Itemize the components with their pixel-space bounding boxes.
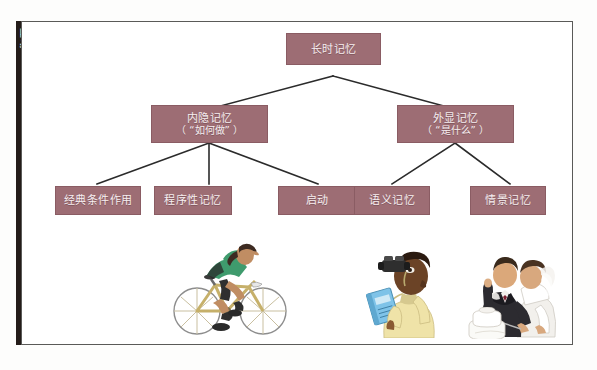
node-procedural-memory[interactable]: 程序性记忆 bbox=[154, 186, 232, 215]
diagram-canvas: 长时记忆 内隐记忆 （ “如何做” ） 外显记忆 （ “是什么” ） 经典条件作… bbox=[21, 21, 573, 345]
node-label: 长时记忆 bbox=[311, 43, 357, 56]
node-label: 程序性记忆 bbox=[164, 194, 222, 207]
node-label: 情景记忆 bbox=[485, 194, 531, 207]
edge-implicit-to-classical bbox=[97, 143, 209, 184]
node-classical-conditioning[interactable]: 经典条件作用 bbox=[55, 186, 141, 215]
node-label: 外显记忆 bbox=[433, 112, 479, 125]
node-label: 经典条件作用 bbox=[64, 194, 133, 207]
node-episodic-memory[interactable]: 情景记忆 bbox=[470, 186, 546, 215]
node-label: 内隐记忆 bbox=[187, 112, 233, 125]
node-implicit-memory[interactable]: 内隐记忆 （ “如何做” ） bbox=[151, 105, 268, 143]
node-sublabel: （ “如何做” ） bbox=[176, 125, 243, 137]
node-priming[interactable]: 启动 bbox=[278, 186, 356, 215]
illustration-photographer bbox=[366, 246, 444, 338]
illustration-cyclist bbox=[171, 239, 291, 339]
edge-explicit-to-semantic bbox=[392, 143, 455, 184]
node-long-term-memory[interactable]: 长时记忆 bbox=[286, 33, 381, 65]
edge-explicit-to-episodic bbox=[455, 143, 510, 184]
page-canvas: 互动 长时记忆 内隐记忆 （ bbox=[0, 0, 597, 370]
node-explicit-memory[interactable]: 外显记忆 （ “是什么” ） bbox=[397, 105, 514, 143]
edge-implicit-to-priming bbox=[209, 143, 318, 184]
node-semantic-memory[interactable]: 语义记忆 bbox=[354, 186, 430, 215]
node-label: 启动 bbox=[306, 194, 329, 207]
node-sublabel: （ “是什么” ） bbox=[422, 125, 489, 137]
illustration-wedding-couple bbox=[461, 249, 557, 339]
node-label: 语义记忆 bbox=[369, 194, 415, 207]
